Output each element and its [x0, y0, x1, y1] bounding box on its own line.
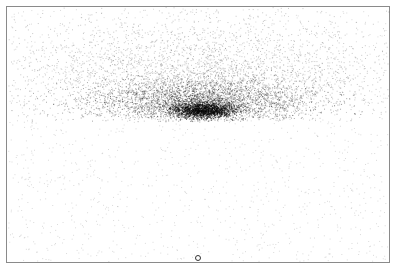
scatter-plot	[0, 0, 398, 270]
open-circle-marker	[195, 255, 201, 261]
